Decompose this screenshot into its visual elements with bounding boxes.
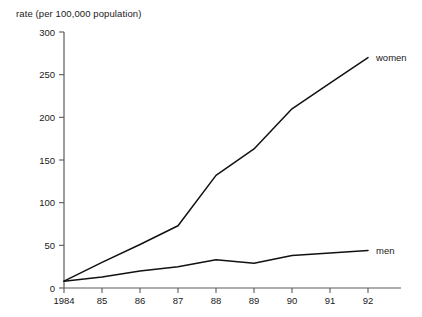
x-tick-label: 1984 — [53, 295, 74, 306]
x-tick-label: 86 — [135, 295, 146, 306]
series-label-men: men — [376, 245, 394, 256]
x-tick-label: 87 — [173, 295, 184, 306]
x-tick-label: 90 — [287, 295, 298, 306]
line-chart: rate (per 100,000 population) 0501001502… — [0, 0, 422, 317]
y-tick-label: 150 — [39, 155, 55, 166]
plot-area: 05010015020025030019848586878889909192wo… — [0, 0, 422, 317]
data-line-women — [64, 58, 368, 282]
y-tick-label: 0 — [50, 283, 55, 294]
x-tick-label: 85 — [97, 295, 108, 306]
data-line-men — [64, 250, 368, 281]
x-tick-label: 89 — [249, 295, 260, 306]
x-tick-label: 92 — [363, 295, 374, 306]
y-tick-label: 100 — [39, 197, 55, 208]
y-tick-label: 250 — [39, 69, 55, 80]
x-tick-label: 91 — [325, 295, 336, 306]
x-tick-label: 88 — [211, 295, 222, 306]
y-tick-label: 50 — [44, 240, 55, 251]
series-label-women: women — [375, 52, 407, 63]
y-tick-label: 200 — [39, 112, 55, 123]
y-tick-label: 300 — [39, 27, 55, 38]
